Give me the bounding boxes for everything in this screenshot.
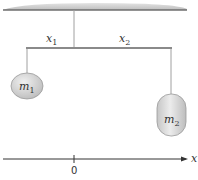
axis-label: x: [191, 152, 198, 165]
axis-arrow-icon: [181, 157, 188, 162]
ceiling: [3, 3, 187, 10]
mass-m1: m1: [11, 73, 43, 99]
mobile-bar: [26, 47, 172, 49]
x1-label: x1: [46, 32, 57, 47]
origin-label: 0: [71, 165, 77, 176]
x-axis: 0 x: [3, 152, 198, 176]
mass-m2: m2: [157, 94, 186, 136]
mobile-diagram: x1 x2 m1 m2 0 x: [0, 0, 198, 180]
x2-label: x2: [119, 32, 130, 47]
